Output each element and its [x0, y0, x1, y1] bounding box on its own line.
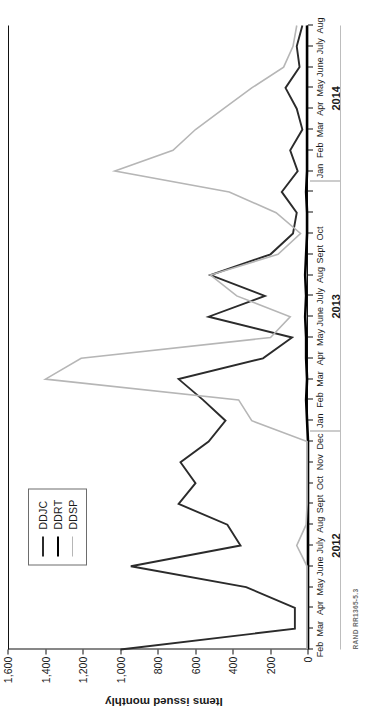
- y-tick-label: 1,000: [115, 649, 127, 683]
- y-tick-label: 1,600: [2, 649, 14, 683]
- x-tick-label: Nov: [315, 454, 325, 470]
- x-tick-mark: [308, 523, 313, 524]
- x-tick-mark: [308, 66, 313, 67]
- y-axis-title: Items issued monthly: [54, 695, 274, 707]
- x-tick-mark: [308, 336, 313, 337]
- x-tick-label: Apr: [315, 600, 325, 614]
- legend-swatch-ddjc: [42, 536, 44, 556]
- legend-item: DDJC: [35, 499, 50, 556]
- x-tick-mark: [308, 128, 313, 129]
- x-tick-mark: [308, 274, 313, 275]
- figure: 02004006008001,0001,2001,4001,600 Items …: [0, 0, 392, 713]
- x-tick-mark: [308, 419, 313, 420]
- x-tick-label: July: [315, 287, 325, 303]
- legend-item: DDSP: [65, 499, 80, 556]
- x-tick-mark: [308, 45, 313, 46]
- x-tick-label: Mar: [315, 620, 325, 636]
- x-tick-mark: [308, 294, 313, 295]
- y-tick-label: 0: [302, 649, 314, 662]
- x-tick-mark: [308, 398, 313, 399]
- x-tick-mark: [308, 315, 313, 316]
- y-tick-label: 1,200: [77, 649, 89, 683]
- rotated-figure-container: 02004006008001,0001,2001,4001,600 Items …: [0, 0, 392, 713]
- x-tick-label: Aug: [315, 17, 325, 33]
- x-tick-mark: [308, 544, 313, 545]
- x-tick-label: Apr: [315, 101, 325, 115]
- x-tick-label: July: [315, 38, 325, 54]
- x-tick-label: July: [315, 537, 325, 553]
- x-tick-mark: [308, 170, 313, 171]
- x-tick-label: Mar: [315, 121, 325, 137]
- x-tick-label: Apr: [315, 351, 325, 365]
- x-tick-mark: [308, 190, 313, 191]
- x-tick-mark: [308, 211, 313, 212]
- x-tick-label: Jan: [315, 413, 325, 428]
- x-tick-label: May: [315, 328, 325, 345]
- x-tick-label: Feb: [315, 392, 325, 408]
- legend-label-ddsp: DDSP: [67, 499, 79, 529]
- x-tick-mark: [308, 149, 313, 150]
- x-tick-label: June: [315, 556, 325, 576]
- x-tick-label: Feb: [315, 641, 325, 657]
- x-tick-mark: [308, 648, 313, 649]
- x-tick-label: Jan: [315, 163, 325, 178]
- x-tick-mark: [308, 586, 313, 587]
- x-tick-label: May: [315, 578, 325, 595]
- plot-area: 02004006008001,0001,2001,4001,600 Items …: [8, 25, 308, 649]
- y-tick-label: 400: [227, 649, 239, 674]
- x-tick-label: Aug: [315, 516, 325, 532]
- x-tick-mark: [308, 107, 313, 108]
- x-tick-mark: [308, 378, 313, 379]
- x-tick-mark: [308, 482, 313, 483]
- y-tick-label: 800: [152, 649, 164, 674]
- x-tick-mark: [308, 627, 313, 628]
- x-tick-mark: [308, 606, 313, 607]
- legend-swatch-ddrt: [57, 536, 59, 556]
- legend: DDJC DDRT DDSP: [28, 488, 87, 565]
- x-tick-mark: [308, 86, 313, 87]
- x-tick-mark: [308, 232, 313, 233]
- x-tick-label: Oct: [315, 476, 325, 490]
- x-tick-mark: [308, 565, 313, 566]
- legend-swatch-ddsp: [72, 536, 73, 556]
- x-tick-label: June: [315, 306, 325, 326]
- y-tick-label: 200: [265, 649, 277, 674]
- legend-label-ddjc: DDJC: [37, 500, 49, 529]
- x-axis-year-separator: [310, 430, 340, 431]
- x-tick-label: Dec: [315, 433, 325, 449]
- x-tick-label: Aug: [315, 267, 325, 283]
- x-tick-mark: [308, 440, 313, 441]
- x-tick-mark: [308, 461, 313, 462]
- x-tick-label: Mar: [315, 371, 325, 387]
- footer-rule: [340, 25, 341, 649]
- legend-label-ddrt: DDRT: [52, 499, 64, 529]
- x-tick-label: May: [315, 79, 325, 96]
- y-tick-label: 1,400: [40, 649, 52, 683]
- x-tick-label: Oct: [315, 226, 325, 240]
- x-tick-mark: [308, 24, 313, 25]
- x-axis-year-separator: [310, 180, 340, 181]
- x-tick-mark: [308, 253, 313, 254]
- x-tick-label: Sept: [315, 245, 325, 264]
- source-note: RAND RR1365-5.3: [352, 588, 359, 649]
- x-tick-label: Sept: [315, 494, 325, 513]
- legend-item: DDRT: [50, 499, 65, 556]
- y-tick-label: 600: [190, 649, 202, 674]
- x-tick-mark: [308, 357, 313, 358]
- x-tick-mark: [308, 502, 313, 503]
- x-tick-label: June: [315, 57, 325, 77]
- x-tick-label: Feb: [315, 142, 325, 158]
